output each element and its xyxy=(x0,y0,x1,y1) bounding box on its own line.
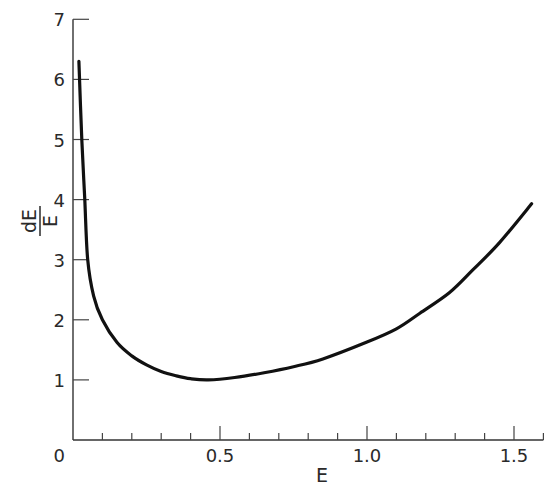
y-axis-label-numerator: dE xyxy=(18,209,40,233)
y-tick-label: 7 xyxy=(54,9,65,30)
y-tick-label: 6 xyxy=(54,69,65,90)
y-tick-label: 5 xyxy=(54,130,65,151)
axes xyxy=(73,19,543,440)
y-tick-label: 1 xyxy=(54,370,65,391)
x-tick-label: 0.5 xyxy=(206,445,235,466)
y-axis-label-denominator: E xyxy=(39,215,61,227)
data-curve xyxy=(79,61,532,380)
x-axis-label: E xyxy=(316,464,328,486)
y-tick-label: 3 xyxy=(54,250,65,271)
y-tick-label: 4 xyxy=(54,190,65,211)
x-tick-label: 1.5 xyxy=(500,445,529,466)
x-tick-label: 1.0 xyxy=(353,445,382,466)
y-tick-label: 2 xyxy=(54,310,65,331)
origin-label: 0 xyxy=(54,445,65,466)
chart-canvas: 123456700.51.01.5 E dE E xyxy=(0,0,557,492)
axis-ticks xyxy=(73,19,543,440)
tick-labels: 123456700.51.01.5 xyxy=(54,9,529,466)
